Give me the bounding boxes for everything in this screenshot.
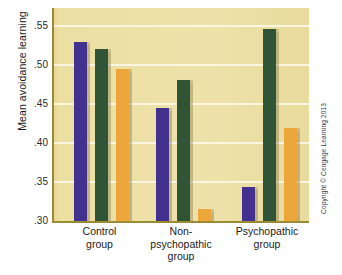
x-axis-category-label-line: Control <box>55 225 145 238</box>
bar <box>198 209 211 221</box>
bar-body <box>156 108 169 221</box>
bar-body <box>198 209 211 221</box>
y-axis-tick-label: .40 <box>22 138 48 148</box>
bar-shadow <box>87 45 90 223</box>
bar-body <box>242 187 255 221</box>
bar-shadow <box>276 32 279 223</box>
x-axis-category-label-line: psychopathic <box>136 238 226 251</box>
bar <box>74 42 87 221</box>
x-axis-category-label-line: Psychopathic <box>222 225 312 238</box>
gridline <box>54 25 309 27</box>
bar <box>263 29 276 221</box>
bar <box>242 187 255 221</box>
y-axis-tick-label: .45 <box>22 99 48 109</box>
bar <box>156 108 169 221</box>
bar-shadow <box>190 83 193 223</box>
bar <box>177 80 190 221</box>
y-axis-tick-label: .50 <box>22 60 48 70</box>
bar <box>284 128 297 221</box>
x-axis-category-label-line: group <box>222 238 312 251</box>
bar-shadow <box>297 131 300 223</box>
bar-body <box>284 128 297 221</box>
bar-shadow <box>211 212 214 223</box>
bar-shadow <box>169 111 172 223</box>
figure-bar-chart: Mean avoidance learning .30.35.40.45.50.… <box>0 0 342 275</box>
y-axis-tick-label: .30 <box>22 216 48 226</box>
x-axis-category-label: Psychopathicgroup <box>222 225 312 250</box>
y-axis-tick-label: .55 <box>22 21 48 31</box>
x-axis-category-label-line: group <box>136 250 226 263</box>
x-axis-category-label-line: group <box>55 238 145 251</box>
bar <box>116 69 129 221</box>
bar-body <box>95 49 108 221</box>
bar-body <box>263 29 276 221</box>
bar-shadow <box>129 72 132 223</box>
plot-area <box>52 8 309 223</box>
y-axis-tick-label: .35 <box>22 177 48 187</box>
bar-body <box>74 42 87 221</box>
bar-body <box>177 80 190 221</box>
bar-shadow <box>255 190 258 223</box>
x-axis-category-label-line: Non- <box>136 225 226 238</box>
copyright-notice: Copyright © Cengage Learning 2013 <box>320 89 327 229</box>
x-axis-category-label: Non-psychopathicgroup <box>136 225 226 263</box>
x-axis-category-label: Controlgroup <box>55 225 145 250</box>
bar <box>95 49 108 221</box>
bar-body <box>116 69 129 221</box>
bar-shadow <box>108 52 111 223</box>
